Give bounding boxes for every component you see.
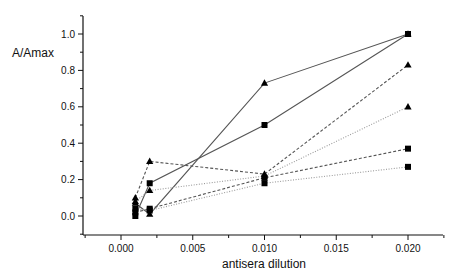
x-tick-label: 0.010 — [252, 243, 277, 254]
x-tick-label: 0.015 — [324, 243, 349, 254]
square-marker — [405, 146, 411, 152]
y-tick-label: 0.4 — [61, 138, 75, 149]
y-tick-label: 1.0 — [61, 29, 75, 40]
series-line-solid-square — [135, 34, 408, 216]
series-line-dashed-square — [135, 149, 408, 213]
y-tick-label: 0.8 — [61, 65, 75, 76]
x-tick-label: 0.020 — [395, 243, 420, 254]
y-tick-label: 0.6 — [61, 101, 75, 112]
x-tick-label: 0.000 — [108, 243, 133, 254]
series-line-dashed-triangle — [135, 65, 408, 198]
square-marker — [262, 122, 268, 128]
triangle-marker — [404, 61, 411, 67]
triangle-marker — [404, 103, 411, 109]
y-ticks: 0.00.20.40.60.81.0 — [61, 16, 83, 234]
square-marker — [405, 164, 411, 170]
plot-lines — [135, 34, 408, 216]
x-tick-label: 0.005 — [180, 243, 205, 254]
square-marker — [147, 208, 153, 214]
square-marker — [262, 180, 268, 186]
series-line-dotted-square — [135, 167, 408, 211]
y-tick-label: 0.0 — [61, 211, 75, 222]
x-ticks: 0.0000.0050.0100.0150.020 — [85, 235, 444, 254]
y-tick-label: 0.2 — [61, 174, 75, 185]
square-marker — [147, 180, 153, 186]
y-axis-title: A/Amax — [12, 46, 54, 60]
square-marker — [132, 206, 138, 212]
square-marker — [405, 31, 411, 37]
triangle-marker — [146, 158, 153, 164]
x-axis-title: antisera dilution — [222, 257, 306, 271]
chart: 0.00.20.40.60.81.0 0.0000.0050.0100.0150… — [0, 0, 462, 280]
